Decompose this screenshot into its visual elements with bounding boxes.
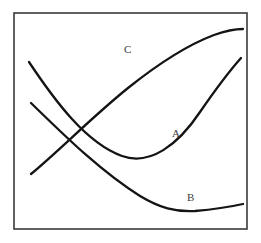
curve-label-B: B bbox=[187, 192, 194, 203]
curve-label-A: A bbox=[172, 128, 180, 139]
curves-figure bbox=[0, 0, 261, 243]
figure-container: C A B bbox=[0, 0, 261, 243]
curve-label-C: C bbox=[124, 44, 131, 55]
